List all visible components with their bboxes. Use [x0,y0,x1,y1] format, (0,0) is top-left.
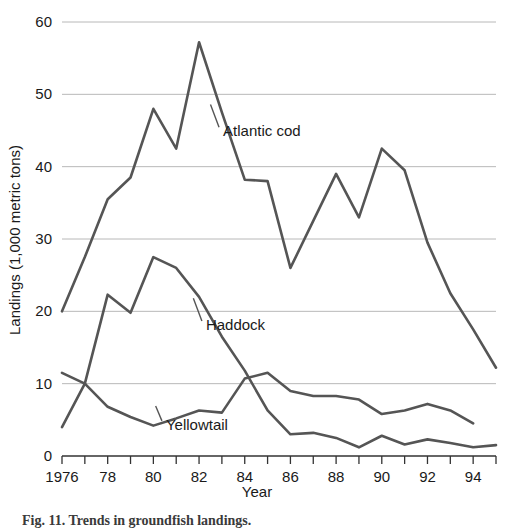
line-chart: 0102030405060 1976788082848688909294 Atl… [0,0,510,529]
series-label-yellowtail: Yellowtail [166,416,228,433]
x-tick-label: 82 [191,468,208,485]
y-tick-label: 40 [35,158,52,175]
y-tick-label: 60 [35,13,52,30]
x-tick-label: 86 [282,468,299,485]
y-tick-label: 50 [35,85,52,102]
series-label-haddock: Haddock [206,316,266,333]
y-tick-label: 20 [35,302,52,319]
x-tick-label: 88 [328,468,345,485]
y-tick-label: 0 [44,447,52,464]
y-axis-title: Landings (1,000 metric tons) [6,145,23,335]
y-tick-label: 10 [35,375,52,392]
x-tick-label: 94 [465,468,482,485]
x-tick-label: 78 [99,468,116,485]
x-tick-label: 80 [145,468,162,485]
chart-background [0,0,510,529]
x-tick-label: 1976 [45,468,78,485]
figure-container: 0102030405060 1976788082848688909294 Atl… [0,0,510,529]
y-tick-label: 30 [35,230,52,247]
x-tick-label: 92 [419,468,436,485]
x-tick-label: 90 [373,468,390,485]
figure-caption: Fig. 11. Trends in groundfish landings. [22,513,492,529]
x-axis-title: Year [242,483,272,500]
series-label-atlantic-cod: Atlantic cod [223,122,301,139]
